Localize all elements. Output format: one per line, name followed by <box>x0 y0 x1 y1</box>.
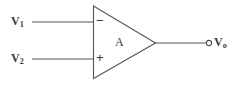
output-label-vo: Vo <box>214 36 227 48</box>
input-label-v1-subscript: 1 <box>20 20 24 29</box>
input-label-v2-subscript: 2 <box>20 57 24 66</box>
output-label-vo-symbol: V <box>214 35 223 49</box>
non-inverting-polarity-sign: + <box>96 51 104 64</box>
amplifier-gain-label: A <box>115 36 124 48</box>
output-terminal-node-icon <box>206 40 211 45</box>
opamp-schematic-diagram: V1 V2 − + A Vo <box>0 0 238 86</box>
input-label-v2: V2 <box>11 52 24 64</box>
inverting-polarity-sign: − <box>96 14 104 27</box>
input-label-v2-symbol: V <box>11 51 20 65</box>
input-label-v1-symbol: V <box>11 14 20 28</box>
output-label-vo-subscript: o <box>223 41 227 50</box>
input-label-v1: V1 <box>11 15 24 27</box>
